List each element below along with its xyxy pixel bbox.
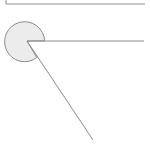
angle-wedge-shape [5,22,45,62]
frame-corner-line [6,0,145,4]
diagonal-ray [27,41,93,140]
diagram-canvas [0,0,150,145]
